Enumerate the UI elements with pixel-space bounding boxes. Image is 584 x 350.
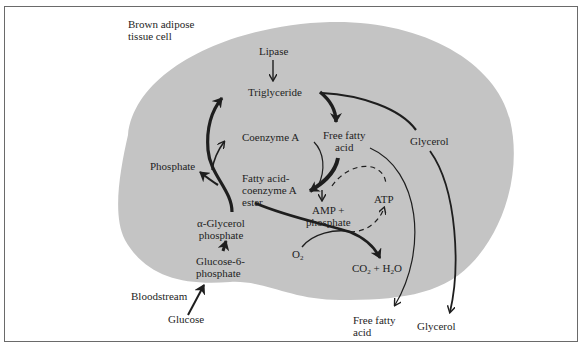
cell-title: Brown adipose tissue cell [128, 18, 194, 42]
label-bloodstream: Bloodstream [131, 290, 187, 302]
label-glucose: Glucose [168, 313, 204, 325]
label-coenzyme-a: Coenzyme A [242, 131, 299, 143]
label-co2-h2o: CO2 + H2O [352, 262, 402, 278]
label-atp: ATP [374, 193, 394, 205]
label-glycerol-outside: Glycerol [417, 320, 455, 332]
label-amp-phosphate: AMP + phosphate [306, 204, 351, 228]
label-o2: O2 [292, 248, 303, 264]
label-alpha-glycerol-phosphate: α-Glycerol phosphate [197, 217, 245, 241]
label-glycerol-inside: Glycerol [410, 135, 448, 147]
arrow-glucose-g6p [188, 285, 204, 315]
label-phosphate: Phosphate [150, 160, 195, 172]
label-lipase: Lipase [259, 45, 288, 57]
label-fatty-acid-coa-ester: Fatty acid- coenzyme A ester [242, 172, 297, 208]
label-free-fatty-acid-outside: Free fatty acid [353, 314, 395, 338]
label-free-fatty-acid-inside: Free fatty acid [323, 129, 365, 153]
label-triglyceride: Triglyceride [248, 86, 302, 98]
label-glucose-6-phosphate: Glucose-6- phosphate [196, 255, 245, 279]
